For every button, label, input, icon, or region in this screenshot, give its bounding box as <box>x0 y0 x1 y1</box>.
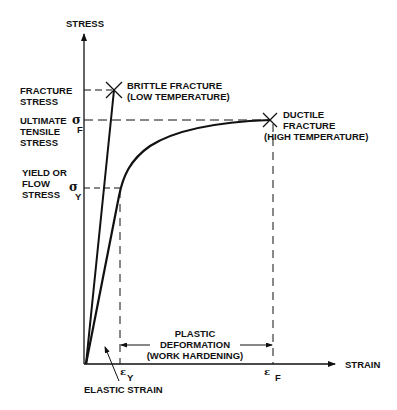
plastic-deformation-label-line1: PLASTIC <box>175 328 216 339</box>
yield-stress-label-line1: YIELD OR <box>22 167 67 178</box>
sigma-f-subscript: F <box>77 124 83 135</box>
brittle-curve <box>86 90 114 364</box>
fracture-stress-label-line2: STRESS <box>20 96 58 107</box>
y-axis-label: STRESS <box>66 18 104 29</box>
elastic-strain-label: ELASTIC STRAIN <box>84 384 163 395</box>
brittle-fracture-label-line2: (LOW TEMPERATURE) <box>127 91 230 102</box>
ductile-fracture-label-line3: (HIGH TEMPERATURE) <box>264 131 368 142</box>
fracture-stress-label-line1: FRACTURE <box>20 85 72 96</box>
ultimate-stress-label-line1: ULTIMATE <box>20 115 67 126</box>
brittle-fracture-label-line1: BRITTLE FRACTURE <box>127 80 222 91</box>
ultimate-stress-label-line3: STRESS <box>20 137 58 148</box>
epsilon-y-subscript: Y <box>127 372 134 383</box>
epsilon-f-symbol: ε <box>264 366 270 377</box>
plastic-deformation-label-line3: (WORK HARDENING) <box>147 350 244 361</box>
sigma-y-subscript: Y <box>75 191 82 202</box>
yield-stress-label-line2: FLOW <box>22 178 50 189</box>
ultimate-stress-label-line2: TENSILE <box>20 126 60 137</box>
plastic-deformation-label-line2: DEFORMATION <box>160 339 230 350</box>
epsilon-f-subscript: F <box>275 372 281 383</box>
yield-stress-label-line3: STRESS <box>22 189 60 200</box>
x-axis-label: STRAIN <box>345 359 381 370</box>
ductile-fracture-label-line2: FRACTURE <box>283 120 335 131</box>
ductile-fracture-label-line1: DUCTILE <box>283 109 324 120</box>
epsilon-y-symbol: ε <box>120 366 126 377</box>
stress-strain-diagram: STRESS STRAIN FRACTURE STRESS ULTIMATE T… <box>0 0 397 410</box>
